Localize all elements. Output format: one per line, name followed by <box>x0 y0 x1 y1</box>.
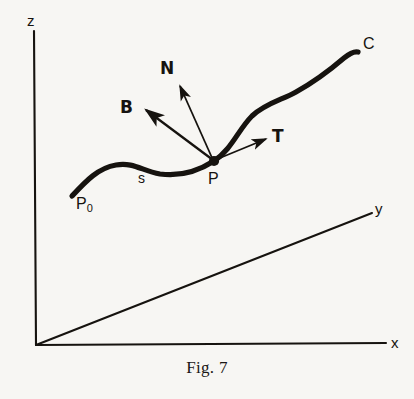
x-axis <box>36 343 386 345</box>
z-axis <box>34 31 36 345</box>
binormal-vector-label: B <box>120 99 133 116</box>
point-p0-letter: P <box>76 195 87 212</box>
curve-name-label: C <box>363 36 375 52</box>
y-axis-label: y <box>375 201 383 216</box>
y-axis <box>36 213 372 345</box>
x-axis-label: x <box>391 335 399 350</box>
arc-length-label: s <box>138 171 145 185</box>
point-p0-subscript: 0 <box>87 202 93 214</box>
coordinate-axes <box>34 31 386 345</box>
point-p-label: P <box>208 171 219 187</box>
figure-container: z y x C N B T s P P0 Fig. 7 <box>0 0 414 399</box>
figure-drawing <box>0 0 414 399</box>
tangent-vector-arrow <box>215 139 266 160</box>
z-axis-label: z <box>27 13 35 28</box>
point-p0-label: P0 <box>76 196 93 212</box>
normal-vector-label: N <box>160 60 174 77</box>
binormal-vector-arrow <box>146 110 213 160</box>
tangent-vector-label: T <box>272 128 284 145</box>
figure-caption: Fig. 7 <box>0 358 414 378</box>
